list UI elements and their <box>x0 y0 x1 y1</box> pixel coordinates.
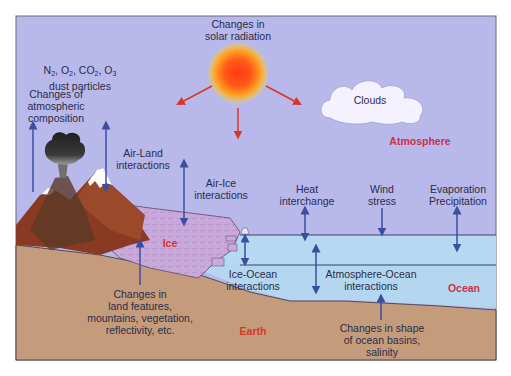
ice-floe <box>212 258 224 266</box>
sun-icon <box>208 43 268 103</box>
gas-co: , CO <box>73 64 95 76</box>
gas-o: , O <box>55 64 69 76</box>
clouds-label: Clouds <box>345 94 395 106</box>
climate-system-diagram: Changes in solar radiation N2, O2, CO2, … <box>0 0 511 376</box>
air-ice-label: Air-Ice interactions <box>186 177 256 201</box>
ocean-basins-label: Changes in shape of ocean basins, salini… <box>332 322 432 358</box>
ice-floe <box>228 244 237 251</box>
gas-o3: , O <box>99 64 113 76</box>
atm-ocean-label: Atmosphere-Ocean interactions <box>316 268 426 292</box>
atm-composition-label: Changes of atmospheric composition <box>16 88 96 124</box>
solar-radiation-label: Changes in solar radiation <box>188 18 288 42</box>
ice-floe <box>226 236 236 241</box>
heat-interchange-label: Heat interchange <box>272 183 342 207</box>
wind-stress-label: Wind stress <box>357 183 407 207</box>
gas-o3-sub: 3 <box>113 70 117 77</box>
earth-label: Earth <box>228 325 278 337</box>
evap-precip-label: Evaporation Precipitation <box>420 183 496 207</box>
atmosphere-label: Atmosphere <box>380 135 460 147</box>
ice-label: Ice <box>150 237 190 249</box>
air-land-label: Air-Land interactions <box>108 147 178 171</box>
ocean-label: Ocean <box>436 282 492 294</box>
ice-ocean-label: Ice-Ocean interactions <box>218 268 288 292</box>
land-features-label: Changes in land features, mountains, veg… <box>80 288 200 336</box>
